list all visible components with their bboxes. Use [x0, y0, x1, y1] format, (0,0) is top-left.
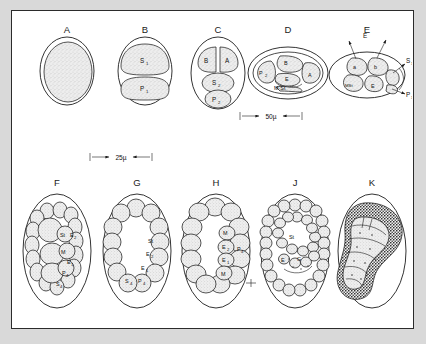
panel-c-cell-b-label: B — [204, 57, 208, 64]
plate-border: A B S 1 P 1 C B A S 2 P 2 — [11, 10, 414, 329]
panel-d-cell-b-label: B — [284, 60, 288, 66]
panel-c-cell-p2-label: P — [212, 96, 216, 103]
panel-f-cell-m-label: M — [61, 249, 66, 255]
scale-bar-25-label: 25µ — [115, 154, 126, 162]
panel-e-arrow-label-s3-sub: 3 — [411, 61, 412, 66]
panel-j-letter: J — [293, 177, 298, 188]
panel-g-letter: G — [133, 177, 140, 188]
panel-h-cell-m1-label: M — [223, 230, 228, 236]
panel-d: D P 2 B E A M·St — [248, 24, 328, 99]
panel-g: G St E 2 E 1 S 4 — [103, 177, 171, 308]
panel-j-cell-g-label: G — [297, 256, 301, 262]
panel-d-cell-mst-label: M·St — [274, 85, 286, 91]
panel-d-letter: D — [285, 24, 292, 35]
panel-k-letter: K — [369, 177, 376, 188]
panel-h-letter: H — [213, 177, 220, 188]
scale-bar-25: 25µ — [90, 153, 152, 162]
panel-a-letter: A — [64, 24, 71, 35]
panel-a: A — [40, 24, 94, 105]
panel-j-cell-st-label: St — [289, 234, 295, 240]
panel-h-tick-mark — [246, 279, 256, 287]
panel-c: C B A S 2 P 2 — [191, 24, 245, 109]
figure-plate: A B S 1 P 1 C B A S 2 P 2 — [0, 0, 426, 344]
panel-d-cell-e-label: E — [285, 76, 289, 82]
panel-c-letter: C — [215, 24, 222, 35]
panel-b: B S 1 P 1 — [118, 24, 172, 105]
panel-d-cell-a-label: A — [308, 72, 312, 78]
panel-j: J — [260, 177, 330, 308]
panel-b-letter: B — [142, 24, 148, 35]
panel-e-arrow-right — [377, 40, 386, 58]
panel-k: K — [337, 177, 406, 308]
panel-b-cell-p1-label: P — [140, 85, 144, 92]
panel-g-cell-st-label: St — [148, 238, 154, 244]
panel-f-letter: F — [54, 177, 60, 188]
panel-e-cell-a-label: a — [353, 64, 356, 70]
panel-f: F — [23, 177, 91, 308]
panel-h-cell-m2-label: M — [221, 271, 226, 277]
panel-h: H M — [181, 177, 256, 308]
panel-e-arrow-label-s3: S — [406, 57, 410, 64]
panel-h-cell-e1-label: E — [222, 257, 226, 263]
panel-e-arrow-label-p3-sub: 3 — [411, 95, 412, 100]
panel-e-arrow-label-p3: P — [406, 91, 410, 98]
diagram-canvas: A B S 1 P 1 C B A S 2 P 2 — [12, 11, 412, 327]
panel-g-cell-p4-label: P — [138, 278, 142, 284]
panel-j-cell-e-label: E — [281, 257, 285, 263]
panel-g-cell-s4-label: S — [125, 278, 129, 284]
panel-e-arrow-label-e: E — [363, 32, 367, 39]
panel-e-cell-mst-label: MSt — [345, 83, 353, 88]
panel-d-cell-p2-label: P — [259, 70, 263, 76]
panel-c-cell-s2-label: S — [212, 79, 216, 86]
panel-f-cell-st-label: St — [60, 232, 66, 238]
panel-h-cell-e2-label: E — [222, 244, 226, 250]
panel-e-arrow-left — [349, 41, 356, 59]
scale-bar-50: 50µ — [240, 112, 302, 121]
panel-e: E a b MSt E E S 3 P 3 — [329, 24, 412, 100]
scale-bar-50-label: 50µ — [265, 113, 276, 121]
panel-e-cell-b-label: b — [374, 64, 377, 70]
panel-e-cell-e-label: E — [371, 83, 375, 89]
panel-b-cell-s1-label: S — [140, 57, 144, 64]
panel-g-cell-e2-label: E — [146, 251, 150, 257]
panel-g-cell-e1-label: E — [141, 265, 145, 271]
